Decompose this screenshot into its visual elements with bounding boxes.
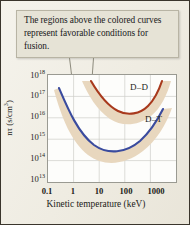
y-tick-labels: 1018 1017 1016 1015 1014 1013 bbox=[15, 1, 45, 225]
series-label-dd: D–D bbox=[130, 82, 148, 92]
y-tick-18: 1018 bbox=[17, 70, 45, 80]
series-label-dt: D–T bbox=[145, 114, 162, 124]
callout-text: The regions above the colored curves rep… bbox=[24, 14, 174, 54]
x-tick-1000: 1000 bbox=[147, 186, 164, 196]
y-tick-17: 1017 bbox=[17, 90, 45, 100]
x-tick-0.1: 0.1 bbox=[42, 186, 53, 196]
figure-background: The regions above the colored curves rep… bbox=[1, 1, 189, 224]
plot-svg bbox=[48, 75, 176, 182]
x-tick-10: 10 bbox=[95, 186, 104, 196]
x-tick-1: 1 bbox=[71, 186, 75, 196]
y-axis-title: nτ (s/cm3) bbox=[4, 86, 14, 150]
y-tick-14: 1014 bbox=[17, 153, 45, 163]
x-axis-title: Kinetic temperature (keV) bbox=[1, 199, 190, 209]
y-tick-13: 1013 bbox=[17, 174, 45, 184]
figure-container: The regions above the colored curves rep… bbox=[0, 0, 190, 225]
x-tick-100: 100 bbox=[120, 186, 133, 196]
y-tick-15: 1015 bbox=[17, 132, 45, 142]
plot-area bbox=[47, 74, 177, 183]
y-tick-16: 1016 bbox=[17, 111, 45, 121]
